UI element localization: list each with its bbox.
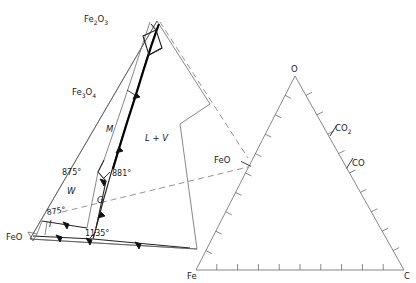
label-phase-i: I: [49, 219, 52, 229]
fe3o4-edge: [104, 22, 150, 160]
dashed-line-lower: [62, 167, 248, 212]
dashed-connectors: [62, 22, 248, 212]
label-point-co: CO: [352, 158, 365, 168]
label-temp-1135: 1135°: [85, 229, 109, 238]
left-boundary-thin: [30, 21, 157, 239]
fe2o3-tick-vert: [151, 24, 156, 30]
bottom-edge-ticks: [217, 264, 383, 270]
bottom-eutectic-line: [33, 236, 190, 248]
label-point-co2: CO2: [335, 123, 352, 135]
label-phase-g: G: [97, 195, 104, 205]
arrow-5: [63, 222, 69, 229]
wustite-gamma-line: [98, 160, 106, 181]
label-vertex-o: O: [291, 64, 298, 74]
label-point-feo: FeO: [214, 155, 231, 165]
right-edge-ticks: [306, 92, 399, 250]
label-vertex-fe: Fe: [187, 271, 197, 281]
left-edge-ticks: [206, 95, 291, 253]
label-temp-881: 881°: [112, 169, 131, 178]
right-triangle-labels: O Fe C FeO CO2 CO: [187, 64, 410, 281]
triangle-outline: [196, 76, 404, 270]
left-diagram-labels: Fe2O3 Fe3O4 FeO M L + V W G I 875° 881° …: [6, 14, 169, 242]
dashed-line-upper: [160, 22, 248, 158]
ternary-triangle-group: [196, 76, 404, 270]
label-phase-lv: L + V: [145, 133, 169, 143]
phase-diagram-figure: Fe2O3 Fe3O4 FeO M L + V W G I 875° 881° …: [0, 0, 416, 283]
label-fe3o4: Fe3O4: [72, 87, 96, 99]
leader-881: [104, 172, 110, 178]
label-vertex-c: C: [404, 271, 410, 281]
label-temp-875-lower: 875°: [46, 205, 66, 217]
fe3o4-tick: [127, 90, 135, 95]
label-temp-875-upper: 875°: [62, 168, 81, 177]
label-phase-w: W: [67, 186, 76, 196]
label-phase-m: M: [106, 124, 114, 134]
iron-box-inner: [45, 222, 47, 235]
label-fe2o3: Fe2O3: [84, 14, 108, 26]
arrow-2: [116, 147, 123, 153]
label-feo-left: FeO: [6, 232, 23, 242]
